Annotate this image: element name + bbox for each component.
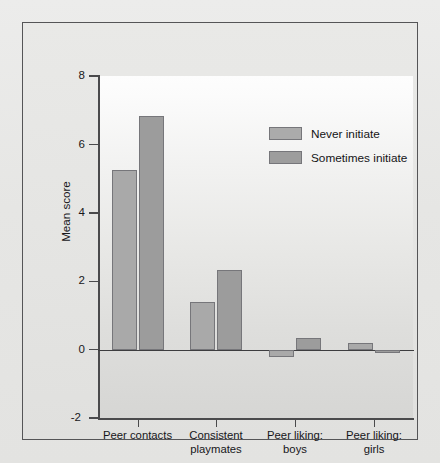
bar-peer-liking-girls-sometimes-initiate [375,350,400,353]
legend-item-sometimes-initiate: Sometimes initiate [269,148,419,167]
legend-item-never-initiate: Never initiate [269,124,419,143]
bar-peer-contacts-sometimes-initiate [139,116,164,350]
y-tick-2 [89,281,98,282]
bar-peer-liking-boys-sometimes-initiate [296,338,321,350]
x-tick-consistent-playmates [216,419,217,427]
x-tick-label-peer-liking-girls: Peer liking: girls [328,429,420,456]
y-tick-label-2: 2 [63,274,85,286]
y-tick-label-neg2: -2 [59,411,81,423]
y-tick-4 [89,212,98,213]
x-tick-peer-liking-girls [374,419,375,427]
chart-legend: Never initiate Sometimes initiate [269,124,419,172]
bar-consistent-playmates-never-initiate [190,302,215,350]
y-axis-title: Mean score [59,164,72,260]
legend-label: Never initiate [311,127,380,141]
x-axis-line [98,418,414,420]
y-tick-6 [89,144,98,145]
x-tick-peer-liking-boys [295,419,296,427]
figure-frame: 8 6 4 2 0 -2 Mean score Peer contacts Co… [22,22,418,440]
y-tick-8 [89,75,98,76]
zero-baseline [98,350,414,351]
bar-peer-liking-boys-never-initiate [269,350,294,357]
x-label-line: girls [328,443,420,457]
y-axis-line [98,75,100,419]
y-tick-label-0: 0 [63,343,85,355]
legend-swatch-icon [269,151,302,164]
legend-label: Sometimes initiate [311,151,407,165]
legend-swatch-icon [269,127,302,140]
y-tick-neg2 [89,417,98,418]
x-tick-peer-contacts [138,419,139,427]
y-tick-0 [89,349,98,350]
x-label-line: Peer liking: [328,429,420,443]
bar-peer-liking-girls-never-initiate [348,343,373,351]
y-tick-label-6: 6 [63,138,85,150]
bar-consistent-playmates-sometimes-initiate [217,270,242,350]
bar-peer-contacts-never-initiate [112,170,137,350]
y-tick-label-8: 8 [63,69,85,81]
